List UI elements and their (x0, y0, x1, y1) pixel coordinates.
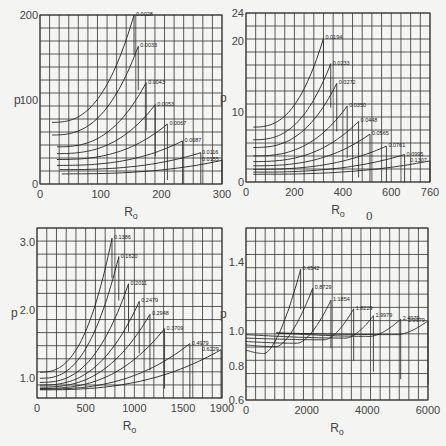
curve-label: 0.3709 (167, 325, 184, 331)
curve-0.0116 (60, 153, 201, 170)
curve-label: 0.2479 (141, 297, 158, 303)
curve-label: 0.1386 (114, 234, 131, 240)
x-tick-label: 200 (152, 188, 170, 200)
x-tick-label: 0 (34, 402, 40, 414)
curve-label: 0.4979 (192, 340, 209, 346)
curve-label: 2.9979 (408, 317, 425, 323)
chart-canvas: 01002003000100200Rop0.00280.00330.00430.… (0, 0, 446, 446)
y-axis-label: p (220, 91, 227, 105)
curve-0.6229 (40, 350, 221, 390)
curve-label: 0.2948 (152, 310, 169, 316)
chart-panel-top-left: 01002003000100200Rop0.00280.00330.00430.… (14, 9, 231, 221)
y-tick-label: 0 (238, 176, 244, 188)
stray-zero-label: 0 (366, 208, 373, 224)
curve-label: 0.0053 (157, 101, 174, 107)
y-tick-label: 24 (232, 7, 244, 19)
x-axis-label: Ro (331, 203, 345, 219)
curve-label: 0.0067 (169, 120, 186, 126)
curve-label: 0.0028 (136, 11, 153, 17)
curve-label: 0.0565 (372, 130, 389, 136)
y-tick-label: 2.0 (20, 304, 35, 316)
y-tick-label: 1.4 (229, 256, 244, 268)
curve-label: 0.0448 (361, 117, 378, 123)
y-axis-label: p (14, 93, 21, 107)
chart-panel-bottom-right: 02000400060000.60.81.01.4Rop0.65420.8729… (220, 228, 440, 437)
curve-label: 0.0155 (202, 156, 219, 162)
curve-0.8729 (246, 288, 313, 347)
x-tick-label: 6000 (416, 404, 440, 416)
curve-label: 1.1854 (333, 296, 350, 302)
y-tick-label: 3.0 (20, 236, 35, 248)
x-tick-label: 100 (91, 188, 109, 200)
chart-panel-bottom-left: 05001000150019001.02.03.0Rop0.13860.1620… (11, 228, 234, 435)
y-tick-label: 1.0 (229, 325, 244, 337)
y-tick-label: 10 (232, 106, 244, 118)
x-axis-label: Ro (330, 421, 344, 437)
chart-panel-top-right: 02004006007600102024Rop0.01940.02330.027… (220, 7, 439, 219)
curve-label: 0.8729 (315, 284, 332, 290)
curve-0.0043 (57, 83, 146, 147)
curve-label: 0.0087 (185, 137, 202, 143)
y-tick-label: 200 (20, 9, 38, 21)
curve-label: 0.6229 (202, 346, 219, 352)
curve-2.9979 (276, 321, 428, 335)
curve-label: 0.6542 (303, 265, 320, 271)
curve-label: 1.8229 (356, 305, 373, 311)
curve-0.6542 (246, 269, 301, 353)
curve-label: 0.1620 (121, 253, 138, 259)
x-axis-label: Ro (123, 419, 137, 435)
x-tick-label: 760 (421, 186, 439, 198)
curve-label: 0.0194 (325, 34, 342, 40)
x-tick-label: 1000 (122, 402, 146, 414)
y-tick-label: 1.0 (20, 372, 35, 384)
y-tick-label: 0 (32, 178, 38, 190)
curve-label: 0.0033 (140, 42, 157, 48)
curve-0.0233 (253, 64, 330, 140)
x-tick-label: 400 (334, 186, 352, 198)
curve-label: 0.1307 (410, 157, 427, 163)
curve-label: 0.0761 (388, 142, 405, 148)
x-tick-label: 200 (285, 186, 303, 198)
curve-label: 0.0995 (407, 151, 424, 157)
grid (40, 15, 222, 184)
curve-0.0272 (253, 83, 336, 147)
x-tick-label: 1500 (171, 402, 195, 414)
y-axis-label: p (220, 307, 227, 321)
curves: 0.65420.87291.18541.82291.99792.49792.99… (246, 265, 428, 385)
curve-label: 0.2011 (131, 280, 147, 286)
curve-label: 0.0350 (349, 102, 366, 108)
curve-label: 0.0272 (339, 79, 356, 85)
x-tick-label: 2000 (294, 404, 318, 416)
curves: 0.13860.16200.20110.24790.29480.37090.49… (40, 234, 221, 398)
x-tick-label: 600 (382, 186, 400, 198)
y-tick-label: 0.6 (229, 394, 244, 406)
y-tick-label: 0.8 (229, 360, 244, 372)
curve-label: 0.0233 (333, 60, 350, 66)
x-tick-label: 300 (213, 188, 231, 200)
y-axis-label: p (11, 306, 18, 320)
curve-0.1620 (40, 257, 119, 379)
curve-label: 1.9979 (375, 312, 392, 318)
y-tick-label: 100 (20, 94, 38, 106)
x-axis-label: Ro (124, 205, 138, 221)
x-tick-label: 4000 (355, 404, 379, 416)
curve-label: 0.0116 (202, 149, 218, 155)
x-tick-label: 500 (77, 402, 95, 414)
curve-label: 0.0043 (148, 79, 165, 85)
curves: 0.01940.02330.02720.03500.04480.05650.07… (253, 34, 430, 182)
y-tick-label: 20 (232, 35, 244, 47)
curve-0.0155 (62, 160, 222, 174)
